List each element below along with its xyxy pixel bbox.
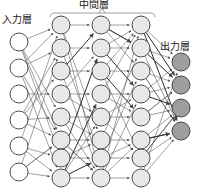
input-layer-label: 入力層 <box>2 14 32 25</box>
connection-edge <box>108 148 133 172</box>
connection-edge <box>150 111 170 116</box>
connection-edge <box>69 163 91 174</box>
connection-edge <box>107 34 134 65</box>
neuron-hidden-1-5 <box>52 108 70 126</box>
neuron-hidden-1-4 <box>52 85 70 103</box>
neuron-hidden-3-3 <box>132 62 150 80</box>
connection-edge <box>27 124 50 135</box>
neuron-output-2 <box>172 76 190 94</box>
connection-edge <box>148 69 172 88</box>
connection-edge <box>24 58 56 112</box>
hidden-layer-label: 中間層 <box>79 0 109 10</box>
neuron-input-3 <box>10 85 28 103</box>
neuron-output-1 <box>172 53 190 71</box>
connection-edge <box>26 147 52 167</box>
neuron-output-3 <box>172 99 190 117</box>
neuron-hidden-1-2 <box>52 39 70 57</box>
connection-edge <box>146 32 175 75</box>
connection-edge <box>147 140 174 171</box>
neuron-hidden-1-6 <box>52 131 70 149</box>
neuron-hidden-1-1 <box>52 16 70 34</box>
neuron-hidden-3-1 <box>132 16 150 34</box>
connection-edge <box>109 31 131 44</box>
neuron-input-5 <box>10 137 28 155</box>
neuron-hidden-2-3 <box>92 62 110 80</box>
neuron-output-4 <box>172 122 190 140</box>
connection-edge <box>67 57 94 88</box>
neuron-hidden-3-5 <box>132 108 150 126</box>
neuron-hidden-3-4 <box>132 85 150 103</box>
connection-edge <box>27 29 50 38</box>
neuron-hidden-1-7 <box>52 149 70 167</box>
network-graph <box>0 0 203 190</box>
neuron-input-4 <box>10 111 28 129</box>
output-layer-label: 出力層 <box>160 41 190 52</box>
neural-network-diagram: 入力層 中間層 出力層 <box>0 0 203 190</box>
neuron-input-1 <box>10 33 28 51</box>
neuron-input-6 <box>10 163 28 181</box>
connection-edge <box>28 173 50 176</box>
connection-edge <box>27 53 50 64</box>
neuron-hidden-2-4 <box>92 85 110 103</box>
neuron-hidden-3-6 <box>132 131 150 149</box>
neuron-hidden-2-1 <box>92 16 110 34</box>
neuron-hidden-2-7 <box>92 149 110 167</box>
neuron-hidden-2-2 <box>92 39 110 57</box>
neuron-hidden-3-7 <box>132 149 150 167</box>
neuron-hidden-1-8 <box>52 169 70 187</box>
neuron-hidden-3-2 <box>132 39 150 57</box>
neuron-hidden-3-8 <box>132 169 150 187</box>
neuron-hidden-1-3 <box>52 62 70 80</box>
connection-edge <box>67 34 94 65</box>
neuron-hidden-2-6 <box>92 131 110 149</box>
connection-edge <box>148 137 171 153</box>
neuron-input-2 <box>10 59 28 77</box>
neuron-hidden-2-8 <box>92 169 110 187</box>
connection-edge <box>148 115 172 134</box>
neuron-hidden-2-5 <box>92 108 110 126</box>
connection-edge <box>148 92 172 111</box>
connection-edge <box>28 148 50 154</box>
